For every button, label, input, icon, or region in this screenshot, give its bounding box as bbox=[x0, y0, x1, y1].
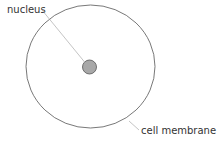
cell-diagram: nucleus cell membrane bbox=[0, 0, 217, 143]
cell-membrane-label: cell membrane bbox=[141, 125, 216, 136]
nucleus-label: nucleus bbox=[7, 4, 46, 15]
nucleus-leader-line bbox=[42, 10, 87, 65]
membrane-leader-line bbox=[129, 121, 139, 130]
